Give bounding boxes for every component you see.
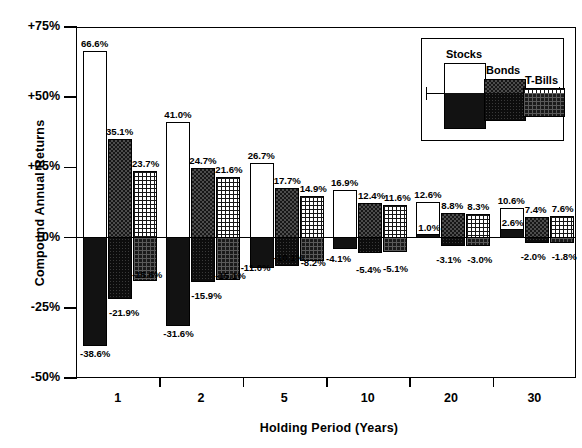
bar-stocks-1-positive [83,51,107,238]
bar-t-bills-20-positive [466,214,490,237]
value-label-max: 7.6% [552,204,574,214]
bar-stocks-20-base [416,235,440,238]
y-tick-label: +25% [0,159,60,173]
bar-bonds-10-negative [358,238,382,253]
x-tick-label: 20 [431,391,471,405]
bar-bonds-30-negative [525,238,549,244]
bar-stocks-10-negative [333,238,357,250]
bar-bonds-2-negative [191,238,215,283]
x-tick [409,378,411,387]
value-label-min: -15.6% [132,270,162,280]
legend: Stocks Bonds T-Bills [421,38,564,141]
y-tick [64,96,77,98]
value-label-max: 66.6% [81,39,108,49]
value-label-max: 8.3% [467,202,489,212]
y-tick-label: -25% [0,300,60,314]
value-label-min: -15.1% [215,271,245,281]
bar-stocks-2-negative [166,238,190,327]
value-label-max: 21.6% [215,165,242,175]
bar-bonds-1-positive [108,139,132,238]
y-tick-label: +50% [0,89,60,103]
legend-label-tbills: T-Bills [525,74,558,86]
value-label-min: -10.1% [274,253,304,263]
legend-swatch-stocks-positive [444,63,486,94]
value-label-min: -8.2% [301,258,326,268]
value-label-max: 26.7% [248,151,275,161]
bar-t-bills-1-positive [133,171,157,238]
y-tick [64,167,77,169]
value-label-min: -3.1% [436,255,461,265]
legend-label-bonds: Bonds [486,64,520,76]
y-tick [64,237,77,239]
value-label-max: 35.1% [106,127,133,137]
value-label-min: -5.1% [383,264,408,274]
value-label-min: -31.6% [163,329,193,339]
x-tick-label: 30 [514,391,554,405]
bar-bonds-10-positive [358,203,382,238]
value-label-max: 10.6% [498,196,525,206]
value-label-max: 12.4% [358,191,385,201]
bar-t-bills-10-positive [383,205,407,238]
value-label-max: 7.4% [525,205,547,215]
value-label-max: 17.7% [274,176,301,186]
legend-swatch-bonds-negative [484,93,526,121]
value-label-max: 16.9% [331,178,358,188]
value-label-min: -15.9% [191,291,221,301]
x-axis-title: Holding Period (Years) [76,421,582,435]
x-tick-label: 5 [264,391,304,405]
value-label-min: -2.0% [521,252,546,262]
bar-t-bills-20-negative [466,238,490,246]
value-label-min: -1.8% [552,252,577,262]
legend-swatch-tbills-negative [523,93,565,117]
y-tick [64,377,77,379]
x-tick [159,378,161,387]
y-tick-label: +75% [0,19,60,33]
bar-bonds-2-positive [191,168,215,237]
y-axis-title: Compound Annual Returns [33,93,47,313]
legend-swatch-stocks-negative [444,93,486,129]
y-tick [64,307,77,309]
bar-bonds-5-positive [275,188,299,238]
value-label-min: -5.4% [356,265,381,275]
value-label-min: 1.0% [418,223,440,233]
value-label-max: 11.6% [384,193,411,203]
bar-stocks-2-positive [166,122,190,237]
value-label-max: 24.7% [189,156,216,166]
legend-axis-cap-left [426,87,427,100]
y-tick-label: -50% [0,370,60,384]
value-label-min: -21.9% [109,308,139,318]
value-label-max: 23.7% [132,159,159,169]
x-tick [326,378,328,387]
value-label-min: 2.6% [502,218,524,228]
value-label-min: -4.1% [326,254,351,264]
x-tick-label: 1 [98,391,138,405]
y-tick [64,26,77,28]
bar-bonds-30-positive [525,217,549,238]
chart-canvas: Compound Annual Returns Holding Period (… [0,0,582,448]
bar-bonds-20-positive [441,213,465,238]
bar-t-bills-30-positive [550,216,574,237]
value-label-max: 12.6% [414,190,441,200]
legend-swatch-bonds-positive [484,79,526,94]
x-tick [493,378,495,387]
x-tick [243,378,245,387]
legend-label-stocks: Stocks [446,48,482,60]
value-label-min: -38.6% [80,349,110,359]
y-tick-label: +0% [0,230,60,244]
value-label-max: 41.0% [164,110,191,120]
bar-t-bills-30-negative [550,238,574,243]
bar-stocks-10-positive [333,190,357,237]
bar-t-bills-2-positive [216,177,240,238]
x-tick-label: 10 [348,391,388,405]
bar-stocks-1-negative [83,238,107,346]
bar-stocks-5-positive [250,163,274,238]
value-label-max: 14.9% [300,184,327,194]
bar-stocks-30-base [500,230,524,237]
bar-t-bills-5-positive [300,196,324,238]
bar-bonds-20-negative [441,238,465,247]
value-label-max: 8.8% [441,201,463,211]
bar-t-bills-10-negative [383,238,407,252]
x-tick-label: 2 [181,391,221,405]
value-label-min: -3.0% [467,255,492,265]
bar-bonds-1-negative [108,238,132,299]
